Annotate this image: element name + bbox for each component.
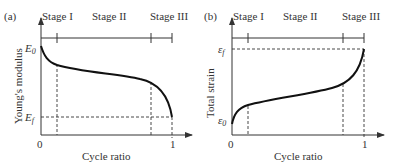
panel-b-ylabel: Total strain — [204, 68, 216, 118]
panel-b: (b) Stage I Stage II Stage III εf ε0 0 1… — [204, 10, 384, 162]
panel-b-label: (b) — [204, 10, 217, 23]
panel-b-stage2-label: Stage II — [283, 10, 318, 22]
panel-a-ylabel: Young's modulus — [12, 48, 24, 124]
panel-b-xlabel: Cycle ratio — [274, 150, 323, 162]
panel-a-x1-label: 1 — [170, 138, 176, 150]
panel-b-x0-label: 0 — [228, 138, 234, 150]
panel-b-ef-label: εf — [218, 43, 226, 57]
panel-a-modulus-curve — [41, 46, 172, 117]
panel-b-stage1-label: Stage I — [233, 10, 264, 22]
panel-a-stage2-label: Stage II — [92, 10, 127, 22]
panel-b-e0-label: ε0 — [218, 114, 226, 128]
panel-a-ef-label: Ef — [24, 111, 36, 125]
figure: (a) Stage I Stage II Stage III E0 Ef 0 1… — [0, 0, 399, 164]
panel-a-xlabel: Cycle ratio — [82, 150, 131, 162]
panel-b-x1-label: 1 — [362, 138, 368, 150]
panel-b-stage3-label: Stage III — [342, 10, 381, 22]
panel-a-stage1-label: Stage I — [42, 10, 73, 22]
panel-a-e0-label: E0 — [24, 42, 36, 56]
panel-a: (a) Stage I Stage II Stage III E0 Ef 0 1… — [4, 10, 192, 162]
panel-a-x0-label: 0 — [37, 138, 43, 150]
panel-a-stage3-label: Stage III — [150, 10, 189, 22]
panel-a-label: (a) — [4, 10, 17, 23]
panel-b-strain-curve — [232, 49, 364, 124]
